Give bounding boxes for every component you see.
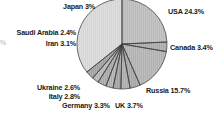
pie-label-ukraine: Ukraine 2.6% [37, 84, 80, 92]
pie-label-canada: Canada 3.4% [170, 44, 213, 52]
pie-label-germany: Germany 3.3% [62, 102, 110, 110]
pie-label-uk: UK 3.7% [115, 102, 143, 110]
pie-label-italy: Italy 2.8% [49, 93, 80, 101]
pie-label-japan: Japan 3% [63, 3, 95, 11]
pie-chart-figure: USA 24.3% Canada 3.4% Russia 15.7% UK 3.… [0, 0, 216, 119]
cropped-edge-text-fragment: % [0, 38, 12, 60]
pie-label-iran: Iran 3.1% [46, 40, 76, 48]
pie-label-usa: USA 24.3% [168, 8, 204, 16]
pie-label-saudi-arabia: Saudi Arabia 2.4% [17, 29, 77, 37]
pie-slice-texture-overlay [122, 0, 167, 44]
pie-label-russia: Russia 15.7% [146, 87, 190, 95]
